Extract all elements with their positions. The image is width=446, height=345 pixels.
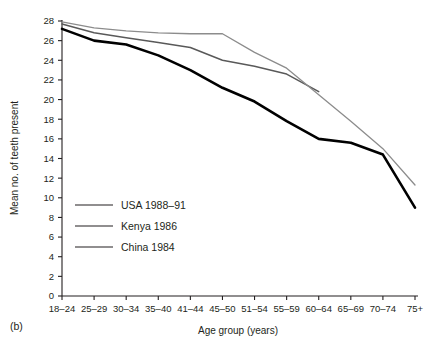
chart-legend: USA 1988–91Kenya 1986China 1984 [75, 199, 186, 253]
x-tick-label: 30–34 [113, 303, 139, 314]
x-tick-label: 35–40 [145, 303, 171, 314]
legend-label-1: Kenya 1986 [121, 220, 177, 232]
y-tick-label: 8 [49, 212, 54, 223]
x-tick-label: 51–54 [241, 303, 267, 314]
x-tick-label: 18–24 [49, 303, 75, 314]
y-tick-label: 20 [43, 94, 54, 105]
x-tick-label: 75+ [407, 303, 424, 314]
x-tick-label: 45–50 [209, 303, 235, 314]
x-tick-label: 25–29 [81, 303, 107, 314]
x-tick-label: 70–74 [370, 303, 396, 314]
x-tick-label: 65–69 [338, 303, 364, 314]
y-tick-label: 18 [43, 114, 54, 125]
y-tick-label: 6 [49, 231, 54, 242]
legend-label-2: China 1984 [121, 241, 175, 253]
series-group [62, 22, 415, 208]
y-tick-label: 2 [49, 271, 54, 282]
line-chart: Mean no. of teeth present Age group (yea… [0, 0, 446, 345]
y-tick-label: 26 [43, 35, 54, 46]
y-axis-title: Mean no. of teeth present [9, 101, 20, 215]
legend-label-0: USA 1988–91 [121, 199, 186, 211]
y-tick-label: 16 [43, 133, 54, 144]
series-line-usa [62, 29, 415, 208]
y-tick-label: 24 [43, 55, 54, 66]
y-tick-label: 0 [49, 290, 54, 301]
y-tick-label: 14 [43, 153, 54, 164]
y-tick-label: 10 [43, 192, 54, 203]
panel-label: (b) [10, 320, 23, 332]
x-tick-label: 60–64 [306, 303, 332, 314]
y-tick-label: 22 [43, 74, 54, 85]
x-axis-title: Age group (years) [198, 325, 278, 336]
y-tick-group: 0246810121416182022242628 [43, 15, 62, 301]
y-tick-label: 4 [49, 251, 54, 262]
x-tick-group: 18–2425–2930–3435–4041–4445–5051–5455–59… [49, 296, 424, 314]
series-line-china [62, 22, 415, 185]
x-tick-label: 41–44 [177, 303, 203, 314]
y-tick-label: 28 [43, 15, 54, 26]
y-tick-label: 12 [43, 173, 54, 184]
x-tick-label: 55–59 [273, 303, 299, 314]
figure-panel-b: Mean no. of teeth present Age group (yea… [0, 0, 446, 345]
